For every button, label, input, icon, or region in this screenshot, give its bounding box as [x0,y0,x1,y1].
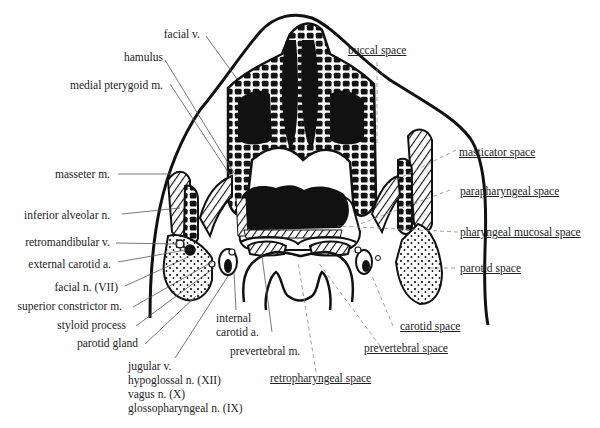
label-carotid-space: carotid space [400,320,460,333]
medial-pterygoid-left [200,176,232,236]
external-carotid-left [185,245,195,255]
vertebral-body [266,272,331,310]
label-vagus: vagus n. (X) [128,388,185,401]
label-external-carotid: external carotid a. [28,258,111,271]
label-styloid: styloid process [57,319,126,332]
label-parotid-space: parotid space [460,262,521,275]
label-prevertebral-space: prevertebral space [364,342,448,355]
label-superior-constrictor: superior constrictor m. [18,300,122,313]
label-glossopharyngeal: glossopharyngeal n. (IX) [128,402,243,415]
label-parapharyngeal-space: parapharyngeal space [460,185,559,198]
label-facial-vein: facial v. [164,28,200,41]
label-parotid-gland: parotid gland [77,337,138,350]
label-hamulus: hamulus [124,51,163,64]
tongue [240,185,349,230]
label-masticator-space: masticator space [459,146,535,159]
label-internal-carotid-1: internal [216,312,251,325]
carotid-sheath-right [355,247,381,274]
label-retropharyngeal-space: retropharyngeal space [270,372,371,385]
maxillary-sinus-right [330,91,364,145]
label-prevertebral-muscle: prevertebral m. [230,345,300,358]
label-medial-pterygoid: medial pterygoid m. [70,79,163,92]
label-internal-carotid-2: carotid a. [216,326,259,339]
label-masseter: masseter m. [55,168,110,181]
label-facial-nerve: facial n. (VII) [54,281,118,294]
carotid-sheath-left [219,249,237,275]
label-buccal-space: buccal space [348,44,406,57]
label-jugular: jugular v. [128,360,171,373]
mandible-ramus-left [184,186,198,244]
label-inferior-alveolar: inferior alveolar n. [24,209,110,222]
prevertebral-fascia [243,252,353,302]
parotid-right [396,224,442,304]
label-pharyngeal-mucosal-space: pharyngeal mucosal space [460,226,581,239]
label-retromandibular: retromandibular v. [25,236,110,249]
maxillary-sinus-left [238,91,272,145]
label-hypoglossal: hypoglossal n. (XII) [128,374,221,387]
